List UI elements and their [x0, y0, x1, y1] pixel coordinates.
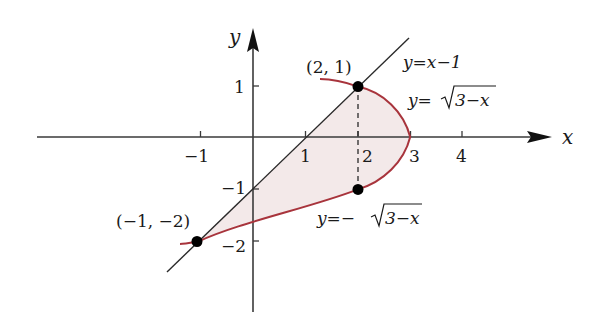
x-axis-label: x: [562, 125, 573, 149]
x-tick-label: 4: [456, 146, 467, 166]
x-tick-label: 3: [409, 146, 420, 166]
point-2-neg1: [353, 184, 364, 195]
label-line-equation: y=x−1: [402, 52, 462, 72]
svg-text:3−x: 3−x: [455, 90, 490, 110]
y-tick-label: 1: [234, 77, 245, 97]
point-2-1: [353, 81, 364, 92]
point-label-2-1: (2, 1): [306, 57, 352, 77]
point-label-neg1-neg2: (−1, −2): [116, 211, 190, 231]
y-axis-label: y: [228, 25, 241, 49]
x-tick-label: 1: [300, 146, 311, 166]
y-tick-label: −1: [221, 178, 246, 198]
x-tick-label: −1: [184, 146, 209, 166]
svg-text:3−x: 3−x: [385, 208, 420, 228]
label-lower-root: y=− 3−x: [316, 204, 422, 228]
y-tick-label: −2: [221, 236, 246, 256]
x-tick-label: 2: [362, 146, 373, 166]
region-diagram: y x −1 1 2 3 4 1 −1 −2 (2, 1) (−1, −2) y…: [0, 0, 608, 332]
point-neg1-neg2: [192, 236, 203, 247]
label-upper-root: y= 3−x: [407, 86, 496, 110]
svg-text:y=: y=: [407, 90, 432, 110]
svg-text:y=−: y=−: [316, 208, 355, 228]
